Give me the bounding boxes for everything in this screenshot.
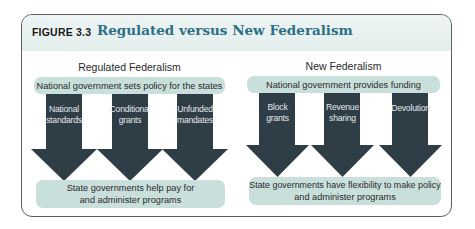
figure-header: FIGURE 3.3 Regulated versus New Federali…: [22, 15, 451, 51]
arrow-label-line1: National: [31, 104, 97, 115]
regulated-bottom-box: State governments help pay for and admin…: [36, 180, 225, 208]
regulated-top-box: National government sets policy for the …: [34, 77, 225, 94]
figure-title: Regulated versus New Federalism: [97, 22, 353, 38]
arrow-label-line1: Unfunded: [162, 104, 228, 115]
arrow-label-line1: Block: [246, 102, 309, 113]
new-top-box: National government provides funding: [247, 76, 440, 93]
arrow-devolution: Devolution: [379, 93, 442, 177]
arrow-label-line2: grants: [246, 113, 309, 124]
arrow-block-grants: Blockgrants: [246, 93, 309, 177]
regulated-bottom-line2: and administer programs: [80, 194, 182, 206]
arrow-label-line1: Conditional: [97, 104, 163, 115]
arrow-label-line1: Devolution: [379, 103, 442, 114]
arrow-revenue-sharing: Revenuesharing: [311, 93, 374, 177]
arrow-label-line1: Revenue: [311, 102, 374, 113]
arrow-conditional-grants: Conditionalgrants: [97, 94, 163, 181]
arrow-label-line2: standards: [31, 115, 97, 126]
arrow-unfunded-mandates: Unfundedmandates: [162, 94, 228, 181]
new-bottom-box: State governments have flexibility to ma…: [249, 177, 441, 205]
regulated-bottom-line1: State governments help pay for: [67, 182, 195, 194]
figure-label: FIGURE 3.3: [32, 26, 91, 38]
new-bottom-line1: State governments have flexibility to ma…: [249, 179, 440, 191]
arrow-label-line2: sharing: [311, 113, 374, 124]
arrow-national-standards: Nationalstandards: [31, 94, 97, 181]
arrow-label-line2: grants: [97, 115, 163, 126]
new-federalism-heading: New Federalism: [247, 60, 440, 72]
arrow-label-line2: mandates: [162, 115, 228, 126]
new-bottom-line2: and administer programs: [294, 191, 396, 203]
regulated-federalism-heading: Regulated Federalism: [34, 61, 225, 73]
